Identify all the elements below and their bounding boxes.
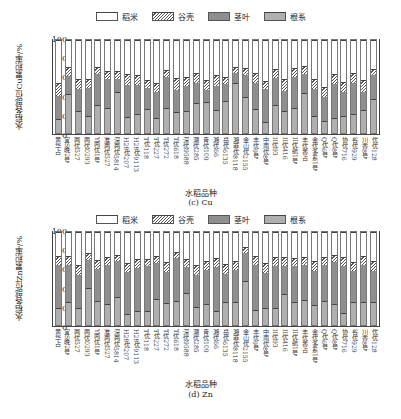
swatch-husk xyxy=(152,12,174,21)
bar-segment xyxy=(243,232,248,247)
legend-item-husk: 谷壳 xyxy=(152,11,194,22)
bar-segment xyxy=(105,265,110,305)
stacked-bar xyxy=(144,231,151,326)
bar-segment xyxy=(322,232,327,257)
bar-segment xyxy=(135,40,140,75)
stacked-bar xyxy=(350,39,357,134)
bar-segment xyxy=(194,73,199,83)
stacked-bar xyxy=(262,231,269,326)
stacked-bar xyxy=(213,231,220,326)
bar-segment xyxy=(194,232,199,265)
bar-segment xyxy=(223,274,228,303)
x-tick-label: 湘优66 xyxy=(213,329,220,364)
bar-segment xyxy=(154,40,159,83)
x-tick-label: 湘菲优8118 xyxy=(232,137,239,172)
bar-segment xyxy=(194,265,199,275)
bar-segment xyxy=(76,40,81,79)
bar-segment xyxy=(184,232,189,259)
bar-segment xyxy=(243,281,248,325)
x-tick-label: 青优109 xyxy=(203,137,210,172)
x-tick-label: 岳优6135 xyxy=(222,137,229,172)
bar-segment xyxy=(95,260,100,269)
x-tick-label: T优618 xyxy=(173,329,180,364)
stacked-bar xyxy=(153,231,160,326)
bar-segment xyxy=(125,74,130,85)
bar-segment xyxy=(273,78,278,105)
bar-segment xyxy=(145,266,150,311)
bar-segment xyxy=(76,232,81,265)
bar-segment xyxy=(233,302,238,325)
x-tick-label: 优优128 xyxy=(371,137,378,172)
bar-segment xyxy=(341,92,346,116)
stacked-bar xyxy=(370,39,377,134)
bar-segment xyxy=(76,79,81,89)
bar-segment xyxy=(351,271,356,302)
bar-segment xyxy=(292,302,297,325)
bar-segment xyxy=(312,116,317,133)
stacked-bar xyxy=(311,231,318,326)
bar-segment xyxy=(164,77,169,108)
bar-segment xyxy=(233,232,238,261)
stacked-bar xyxy=(242,39,249,134)
x-tick-label: II优93 xyxy=(272,137,279,172)
bar-segment xyxy=(145,80,150,88)
x-tick-label: 中南优8号 xyxy=(262,137,269,172)
bar-segment xyxy=(282,257,287,265)
swatch-rice xyxy=(96,215,118,224)
bar-segment xyxy=(184,267,189,293)
bar-segment xyxy=(184,77,189,86)
bar-segment xyxy=(351,302,356,326)
bar-segment xyxy=(204,40,209,80)
bar-segment xyxy=(105,257,110,264)
bar-segment xyxy=(125,272,130,314)
bar-segment xyxy=(292,232,297,258)
bar-segment xyxy=(66,67,71,76)
bar-segment xyxy=(361,92,366,111)
bar-segment xyxy=(312,79,317,89)
x-tick-label: 优优128 xyxy=(371,329,378,364)
stacked-bar xyxy=(281,231,288,326)
x-tick-label: Q优8号 xyxy=(331,329,338,364)
bar-segment xyxy=(332,232,337,255)
bar-segment xyxy=(233,261,238,270)
bar-segment xyxy=(243,97,248,133)
plot-area xyxy=(52,39,380,135)
x-tick-label: 丰优9号 xyxy=(252,329,259,364)
bar-segment xyxy=(56,96,61,119)
bar-segment xyxy=(76,275,81,308)
bar-segment xyxy=(204,102,209,133)
bar-segment xyxy=(194,275,199,307)
bar-segment xyxy=(253,256,258,264)
bar-segment xyxy=(184,293,189,325)
stacked-bar xyxy=(114,231,121,326)
legend-label: 谷壳 xyxy=(178,11,194,22)
bar-segment xyxy=(273,40,278,69)
bar-segment xyxy=(76,265,81,275)
bar-segment xyxy=(341,116,346,133)
bar-segment xyxy=(145,88,150,109)
bar-segment xyxy=(56,265,61,308)
bar-segment xyxy=(105,79,110,108)
bar-segment xyxy=(204,90,209,103)
bar-segment xyxy=(204,261,209,270)
legend-item-rice: 稻米 xyxy=(96,214,138,225)
bar-segment xyxy=(214,110,219,133)
x-tick-labels: 黄华占宜S晚2号两优527两优0293Y两优1号准两优527深两优5814H28… xyxy=(52,137,380,172)
bar-segment xyxy=(263,89,268,122)
bar-segment xyxy=(263,263,268,273)
bar-segment xyxy=(214,86,219,110)
bar-segment xyxy=(273,105,278,133)
bar-segment xyxy=(214,267,219,310)
legend-item-husk: 谷壳 xyxy=(152,214,194,225)
x-tick-label: T优272 xyxy=(163,329,170,364)
stacked-bar xyxy=(232,231,239,326)
bar-segment xyxy=(86,253,91,260)
bar-segment xyxy=(125,263,130,272)
y-axis-label: 水稻各部位Cu累积率/% xyxy=(14,44,25,130)
bar-segment xyxy=(243,253,248,281)
bar-segment xyxy=(194,307,199,325)
bar-segment xyxy=(302,40,307,66)
bar-segment xyxy=(282,232,287,257)
bar-segment xyxy=(253,310,258,325)
x-tick-labels: 黄华占宜S晚2号两优527两优0293Y两优1号准两优527深两优5814H28… xyxy=(52,329,380,364)
